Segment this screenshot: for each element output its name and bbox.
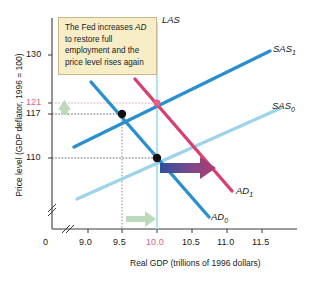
y-tick-117: 117 [26, 108, 41, 118]
guide-lines [52, 103, 157, 229]
gdp-increase-arrow [126, 211, 156, 227]
callout-emphasis-ad: AD [135, 23, 146, 32]
y-tick-121: 121 [26, 97, 41, 107]
as-ad-diagram: The Fed increases AD to restore full emp… [0, 0, 318, 282]
x-axis-ticks [88, 229, 262, 233]
callout-text-part1: The Fed increases [65, 23, 135, 32]
curve-label-sas0: SAS0 [272, 100, 295, 113]
x-tick-10-0: 10.0 [146, 237, 164, 247]
price-increase-arrow [58, 100, 71, 115]
y-axis-ticks [48, 55, 52, 158]
x-tick-11-5: 11.5 [252, 237, 269, 247]
y-tick-110: 110 [26, 152, 41, 162]
x-tick-9-0: 9.0 [79, 237, 92, 247]
x-axis-title: Real GDP (trillions of 1996 dollars) [130, 258, 261, 268]
callout-text-part2: to restore full employment and the price… [65, 35, 144, 67]
callout-textbox: The Fed increases AD to restore full emp… [58, 17, 157, 75]
x-tick-11-0: 11.0 [217, 237, 234, 247]
x-tick-origin: 0 [43, 237, 48, 247]
x-tick-9-5: 9.5 [113, 237, 126, 247]
y-axis-title: Price level (GDP deflator, 1996 = 100) [14, 45, 24, 205]
curve-label-ad1: AD1 [236, 185, 253, 198]
y-tick-130: 130 [26, 49, 41, 59]
curve-label-las: LAS [162, 14, 180, 25]
curve-label-ad0: AD0 [211, 211, 228, 224]
x-tick-10-5: 10.5 [182, 237, 200, 247]
curve-label-sas1: SAS1 [273, 43, 296, 56]
